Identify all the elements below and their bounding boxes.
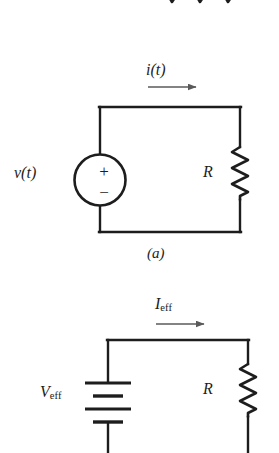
circuit-b-group bbox=[85, 324, 256, 453]
source-label-vt: v(t) bbox=[14, 165, 36, 181]
caption-a: (a) bbox=[147, 246, 165, 261]
current-label-it: i(t) bbox=[146, 62, 166, 78]
top-partial-resistor-icon bbox=[165, 0, 236, 2]
resistor-a-icon bbox=[232, 147, 248, 200]
source-minus-sign: − bbox=[96, 184, 112, 201]
circuit-figure: i(t) v(t) R + − (a) Ieff Veff R bbox=[0, 0, 279, 453]
resistor-label-a: R bbox=[203, 164, 213, 180]
resistor-b-icon bbox=[240, 364, 256, 417]
source-label-veff: Veff bbox=[40, 384, 62, 402]
current-label-ieff-sub: eff bbox=[160, 302, 172, 313]
source-label-veff-sub: eff bbox=[50, 390, 62, 401]
current-label-ieff: Ieff bbox=[155, 296, 172, 314]
source-label-veff-main: V bbox=[40, 383, 50, 400]
battery-icon bbox=[85, 383, 131, 422]
resistor-label-b: R bbox=[203, 381, 213, 397]
source-plus-sign: + bbox=[96, 163, 112, 180]
circuit-a-group bbox=[75, 87, 249, 232]
